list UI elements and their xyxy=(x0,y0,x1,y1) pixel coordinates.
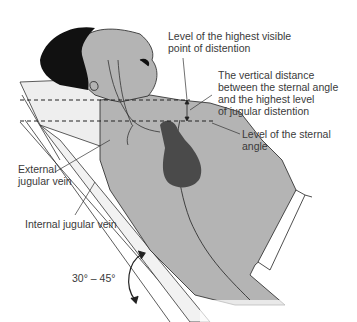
label-sternal-angle: Level of the sternal angle xyxy=(242,128,331,152)
label-internal-jugular-vein: Internal jugular vein xyxy=(25,218,117,230)
label-external-jugular-vein: External jugular vein xyxy=(18,163,72,187)
label-highest-distention: Level of the highest visible point of di… xyxy=(168,30,291,54)
label-vertical-distance: The vertical distance between the sterna… xyxy=(218,69,338,117)
label-angle-range: 30° – 45° xyxy=(72,272,115,284)
